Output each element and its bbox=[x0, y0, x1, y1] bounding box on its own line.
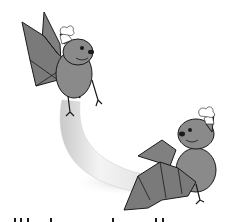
bat-bottom-right bbox=[124, 107, 216, 210]
eye-icon bbox=[80, 46, 84, 50]
cropped-caption-marks bbox=[0, 213, 228, 222]
bats-banana-illustration bbox=[0, 0, 228, 222]
eye-icon bbox=[188, 128, 192, 132]
